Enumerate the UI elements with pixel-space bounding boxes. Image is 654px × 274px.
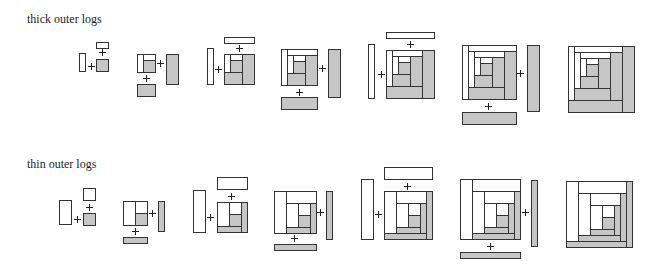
plus-icon	[319, 65, 326, 72]
white-log	[575, 53, 581, 89]
plus-icon	[99, 49, 106, 56]
row-thin	[60, 168, 633, 259]
gray-log	[627, 182, 633, 248]
gray-log	[243, 55, 255, 85]
step-1	[80, 43, 109, 72]
gray-log	[473, 234, 515, 240]
gray-log	[97, 60, 109, 72]
step-2	[138, 55, 179, 97]
white-log	[393, 57, 399, 75]
plus-icon	[291, 235, 298, 242]
white-top-log	[225, 38, 255, 44]
block	[282, 50, 318, 86]
row-label-thick-outer-logs: thick outer logs	[27, 13, 102, 25]
plus-icon	[132, 228, 139, 235]
gray-log	[124, 238, 148, 244]
white-log	[230, 203, 242, 215]
plus-icon	[236, 45, 243, 52]
white-log	[138, 55, 144, 73]
white-log	[469, 52, 475, 88]
gray-log	[144, 61, 156, 73]
white-log	[603, 206, 615, 218]
white-log	[208, 49, 214, 85]
plus-icon	[228, 193, 235, 200]
gray-log	[515, 192, 521, 240]
gray-log	[421, 204, 427, 234]
plus-icon	[149, 210, 156, 217]
white-log	[225, 38, 255, 44]
gray-log	[427, 192, 433, 240]
row-label-thin-outer-logs: thin outer logs	[27, 158, 96, 170]
white-top-log	[385, 168, 433, 180]
log-cabin-diagram: thick outer logs thin outer logs	[0, 0, 654, 274]
gray-log	[611, 53, 623, 101]
gray-log	[481, 64, 493, 76]
plus-icon	[378, 71, 385, 78]
center-square	[84, 214, 96, 226]
plus-icon	[487, 243, 494, 250]
white-log	[299, 204, 311, 216]
gray-log	[532, 181, 538, 247]
plus-icon	[522, 209, 529, 216]
gray-log	[603, 218, 615, 230]
gray-log	[393, 75, 411, 87]
gray-log	[138, 85, 156, 97]
gray-log	[505, 52, 517, 100]
plus-icon	[157, 60, 164, 67]
plus-icon	[296, 89, 303, 96]
gray-log	[225, 73, 243, 85]
white-left-log	[194, 191, 206, 233]
gray-log	[469, 88, 505, 100]
gray-log	[329, 50, 341, 98]
step-1	[60, 189, 96, 226]
gray-log	[136, 214, 148, 226]
white-log	[579, 182, 627, 194]
finished-block	[567, 182, 633, 248]
gray-log	[294, 62, 306, 74]
white-log	[461, 180, 473, 240]
gray-log	[218, 227, 242, 233]
white-log	[282, 50, 288, 86]
gray-log	[387, 87, 423, 99]
white-log	[387, 51, 393, 87]
gray-log	[615, 206, 621, 236]
gray-right-log	[528, 46, 540, 112]
gray-log	[475, 76, 493, 88]
gray-log	[621, 194, 627, 242]
plus-icon	[88, 63, 95, 70]
white-left-log	[208, 49, 214, 85]
white-log	[294, 56, 306, 62]
white-log	[80, 54, 86, 72]
step-5	[369, 33, 435, 99]
white-log	[387, 33, 435, 39]
white-log	[287, 204, 299, 228]
gray-bottom-log	[275, 245, 317, 251]
white-log	[84, 189, 96, 201]
gray-log	[399, 63, 411, 75]
white-log	[124, 202, 136, 226]
white-left-log	[362, 180, 374, 240]
gray-log	[84, 214, 96, 226]
gray-log	[623, 47, 635, 113]
white-log	[591, 194, 621, 206]
gray-log	[288, 74, 306, 86]
plus-icon	[517, 70, 524, 77]
gray-log	[311, 204, 317, 234]
white-log	[287, 192, 317, 204]
block	[138, 55, 156, 73]
block	[275, 192, 317, 234]
white-log	[497, 204, 509, 216]
gray-log	[287, 228, 311, 234]
white-log	[194, 191, 206, 233]
white-log	[369, 45, 375, 99]
gray-log	[411, 57, 423, 87]
gray-log	[230, 215, 242, 227]
gray-log	[587, 65, 599, 77]
gray-right-log	[532, 181, 538, 247]
plus-icon	[404, 183, 411, 190]
step-5	[362, 168, 433, 240]
white-log	[136, 202, 148, 214]
white-log	[409, 204, 421, 216]
white-log	[575, 47, 623, 53]
white-log	[60, 201, 72, 225]
